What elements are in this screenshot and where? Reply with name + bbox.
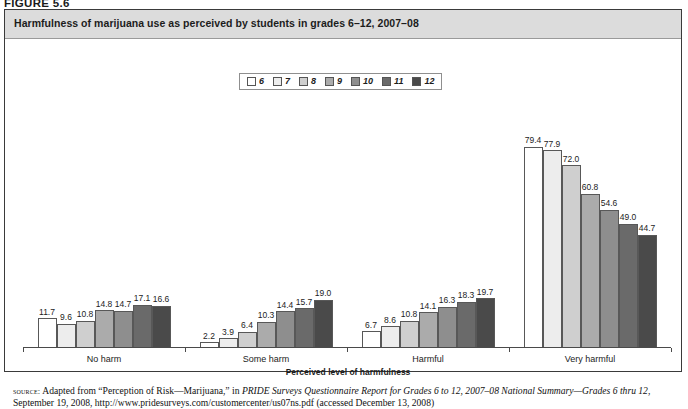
- category-label: Some harm: [185, 354, 347, 364]
- legend-item-grade-7: 7: [273, 77, 290, 86]
- bar-value-label: 10.8: [401, 310, 418, 319]
- bar-column: 79.4: [524, 102, 543, 348]
- legend-swatch-icon: [382, 77, 391, 86]
- bar-group-no-harm: 11.79.610.814.814.717.116.6: [23, 102, 185, 348]
- bar-grade-6[interactable]: [524, 147, 543, 348]
- bar-grade-12[interactable]: [638, 235, 657, 348]
- bar-value-label: 18.3: [458, 291, 475, 300]
- chart-legend: 6789101112: [239, 73, 442, 90]
- bar-group-harmful: 6.78.610.814.116.318.319.7: [347, 102, 509, 348]
- bar-column: 14.1: [419, 102, 438, 348]
- legend-item-grade-11: 11: [382, 77, 403, 86]
- legend-item-label: 6: [259, 77, 264, 86]
- bar-column: 14.7: [114, 102, 133, 348]
- bar-value-label: 14.4: [277, 301, 294, 310]
- legend-swatch-icon: [247, 77, 256, 86]
- bar-value-label: 10.8: [77, 310, 94, 319]
- bar-group-some-harm: 2.23.96.410.314.415.719.0: [185, 102, 347, 348]
- bar-grade-10[interactable]: [114, 311, 133, 348]
- figure-title-band: Harmfulness of marijuana use as perceive…: [5, 10, 681, 39]
- bar-column: 3.9: [219, 102, 238, 348]
- bar-value-label: 3.9: [222, 328, 234, 337]
- bar-grade-6[interactable]: [38, 318, 57, 348]
- bar-grade-8[interactable]: [400, 321, 419, 348]
- bar-value-label: 19.7: [477, 288, 494, 297]
- bar-grade-12[interactable]: [152, 306, 171, 348]
- legend-swatch-icon: [412, 77, 421, 86]
- x-axis-tick: [185, 348, 186, 352]
- category-label: No harm: [23, 354, 185, 364]
- x-axis-tick: [23, 348, 24, 352]
- bar-column: 10.3: [257, 102, 276, 348]
- bar-value-label: 54.6: [601, 199, 618, 208]
- title-divider: [5, 38, 681, 39]
- bar-grade-10[interactable]: [600, 210, 619, 348]
- bar-grade-8[interactable]: [76, 321, 95, 348]
- bar-column: 17.1: [133, 102, 152, 348]
- bar-grade-12[interactable]: [476, 298, 495, 348]
- bar-column: 8.6: [381, 102, 400, 348]
- bar-group-bars: 2.23.96.410.314.415.719.0: [185, 102, 347, 348]
- figure-frame: Harmfulness of marijuana use as perceive…: [4, 9, 682, 372]
- bar-column: 72.0: [562, 102, 581, 348]
- bar-column: 19.0: [314, 102, 333, 348]
- bar-value-label: 9.6: [60, 313, 72, 322]
- bar-value-label: 17.1: [134, 294, 151, 303]
- bar-value-label: 60.8: [582, 183, 599, 192]
- bar-value-label: 16.6: [153, 295, 170, 304]
- bar-value-label: 49.0: [620, 213, 637, 222]
- bar-column: 19.7: [476, 102, 495, 348]
- bar-grade-9[interactable]: [257, 322, 276, 348]
- bar-grade-7[interactable]: [381, 326, 400, 348]
- bar-grade-10[interactable]: [438, 307, 457, 348]
- bar-value-label: 14.1: [420, 302, 437, 311]
- x-axis-tick: [671, 348, 672, 352]
- legend-item-label: 8: [311, 77, 316, 86]
- bar-grade-11[interactable]: [619, 224, 638, 348]
- bar-value-label: 16.3: [439, 296, 456, 305]
- bar-value-label: 14.8: [96, 300, 113, 309]
- legend-item-grade-8: 8: [299, 77, 316, 86]
- bar-grade-10[interactable]: [276, 311, 295, 348]
- bar-group-bars: 79.477.972.060.854.649.044.7: [509, 102, 671, 348]
- bar-value-label: 11.7: [39, 308, 55, 317]
- bar-column: 14.8: [95, 102, 114, 348]
- bar-column: 77.9: [543, 102, 562, 348]
- bar-grade-12[interactable]: [314, 300, 333, 348]
- bar-value-label: 8.6: [384, 316, 396, 325]
- bar-grade-9[interactable]: [581, 194, 600, 348]
- bar-column: 2.2: [200, 102, 219, 348]
- bar-value-label: 44.7: [639, 224, 656, 233]
- legend-item-label: 11: [394, 77, 403, 86]
- page-title: Harmfulness of marijuana use as perceive…: [14, 17, 419, 29]
- bar-grade-7[interactable]: [543, 150, 562, 348]
- bar-column: 10.8: [76, 102, 95, 348]
- bar-column: 6.7: [362, 102, 381, 348]
- legend-item-grade-9: 9: [325, 77, 342, 86]
- legend-swatch-icon: [273, 77, 282, 86]
- bar-groups: 11.79.610.814.814.717.116.62.23.96.410.3…: [23, 102, 671, 348]
- bar-grade-7[interactable]: [57, 324, 76, 348]
- bar-column: 18.3: [457, 102, 476, 348]
- legend-swatch-icon: [351, 77, 360, 86]
- source-note: source: Adapted from “Perception of Risk…: [13, 385, 688, 409]
- bar-column: 16.3: [438, 102, 457, 348]
- bar-grade-11[interactable]: [295, 308, 314, 348]
- bar-grade-11[interactable]: [457, 302, 476, 348]
- bar-grade-11[interactable]: [133, 305, 152, 348]
- bar-grade-9[interactable]: [419, 312, 438, 348]
- bar-column: 6.4: [238, 102, 257, 348]
- bar-value-label: 77.9: [544, 140, 561, 149]
- bar-value-label: 14.7: [115, 300, 132, 309]
- bar-grade-8[interactable]: [238, 332, 257, 348]
- bar-value-label: 2.2: [203, 332, 215, 341]
- bar-grade-9[interactable]: [95, 310, 114, 348]
- bar-column: 16.6: [152, 102, 171, 348]
- legend-item-label: 10: [363, 77, 373, 86]
- chart-plot-area: 11.79.610.814.814.717.116.62.23.96.410.3…: [23, 102, 671, 348]
- legend-item-label: 9: [337, 77, 342, 86]
- bar-grade-6[interactable]: [362, 331, 381, 348]
- legend-swatch-icon: [325, 77, 334, 86]
- bar-value-label: 15.7: [296, 298, 313, 307]
- bar-grade-8[interactable]: [562, 165, 581, 348]
